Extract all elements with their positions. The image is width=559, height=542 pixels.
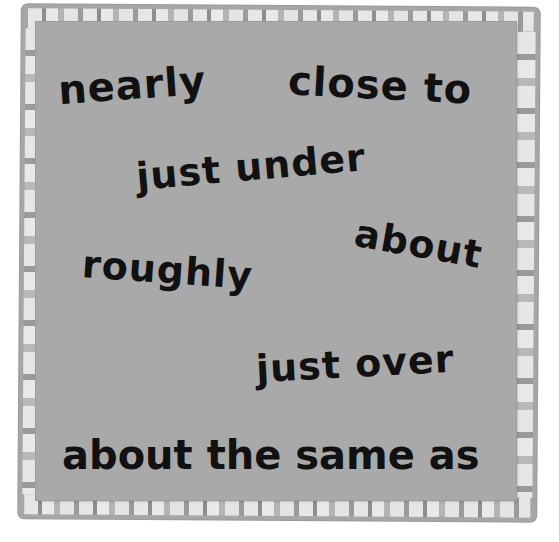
phrase-about-the-same-as: about the same as (62, 432, 480, 478)
phrase-close-to: close to (287, 57, 474, 113)
